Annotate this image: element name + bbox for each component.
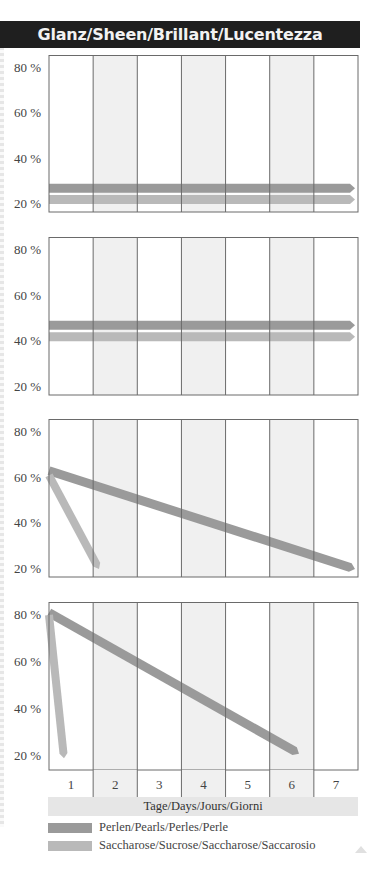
- series-band-perlen: [47, 609, 299, 755]
- y-tick-label: 80 %: [14, 60, 41, 76]
- legend-swatch-perlen: [48, 823, 92, 833]
- series-band-saccharose: [49, 332, 355, 341]
- chart-panel-4: 80 %60 %40 %20 %: [0, 602, 371, 772]
- legend-label-perlen: Perlen/Pearls/Perles/Perle: [99, 820, 228, 835]
- legend-item-saccharose: Saccharose/Sucrose/Saccharose/Saccarosio: [48, 838, 316, 853]
- legend-item-perlen: Perlen/Pearls/Perles/Perle: [48, 820, 228, 835]
- chart-panel-3: 80 %60 %40 %20 %: [0, 419, 371, 579]
- chart-plot: [0, 602, 371, 772]
- legend-label-saccharose: Saccharose/Sucrose/Saccharose/Saccarosio: [99, 838, 316, 853]
- x-tick-label: 7: [333, 777, 340, 792]
- x-axis-label: Tage/Days/Jours/Giorni: [48, 797, 358, 816]
- y-tick-label: 40 %: [14, 333, 41, 349]
- y-tick-label: 20 %: [14, 379, 41, 395]
- y-tick-label: 60 %: [14, 470, 41, 486]
- x-axis-ticks: 1234567: [0, 770, 371, 798]
- chart-panel-1: 80 %60 %40 %20 %: [0, 55, 371, 214]
- y-tick-label: 40 %: [14, 515, 41, 531]
- x-tick-label: 1: [68, 777, 75, 792]
- y-tick-label: 80 %: [14, 424, 41, 440]
- y-tick-label: 60 %: [14, 105, 41, 121]
- x-tick-label: 4: [200, 777, 207, 792]
- chart-plot: [0, 55, 371, 214]
- chart-panel-2: 80 %60 %40 %20 %: [0, 237, 371, 397]
- x-tick-label: 2: [112, 777, 119, 792]
- y-tick-label: 20 %: [14, 748, 41, 764]
- y-tick-label: 60 %: [14, 288, 41, 304]
- series-band-saccharose: [45, 615, 67, 759]
- chart-title: Glanz/Sheen/Brillant/Lucentezza: [0, 21, 360, 48]
- series-band-saccharose: [49, 195, 355, 204]
- x-tick-label: 3: [156, 777, 163, 792]
- y-tick-label: 20 %: [14, 196, 41, 212]
- chart-plot: [0, 237, 371, 397]
- x-tick-label: 6: [289, 777, 296, 792]
- corner-mark-icon: [355, 846, 367, 853]
- y-tick-label: 40 %: [14, 701, 41, 717]
- y-tick-label: 80 %: [14, 242, 41, 258]
- y-tick-label: 20 %: [14, 561, 41, 577]
- chart-plot: [0, 419, 371, 579]
- series-band-perlen: [49, 184, 355, 193]
- y-tick-label: 40 %: [14, 151, 41, 167]
- legend-swatch-saccharose: [48, 841, 92, 851]
- y-tick-label: 60 %: [14, 654, 41, 670]
- y-tick-label: 80 %: [14, 607, 41, 623]
- series-band-perlen: [49, 321, 355, 330]
- x-axis-grid: 1234567: [0, 770, 371, 798]
- x-tick-label: 5: [244, 777, 251, 792]
